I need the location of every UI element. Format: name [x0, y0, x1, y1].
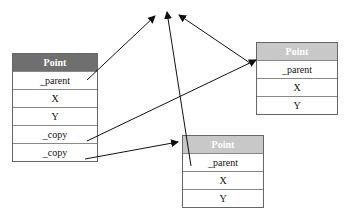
arrow-copy-2	[85, 142, 178, 159]
arrows-layer	[0, 0, 346, 219]
arrow-copy-1	[87, 60, 256, 141]
arrow-left-parent	[87, 16, 155, 80]
arrow-right-parent	[179, 15, 250, 63]
